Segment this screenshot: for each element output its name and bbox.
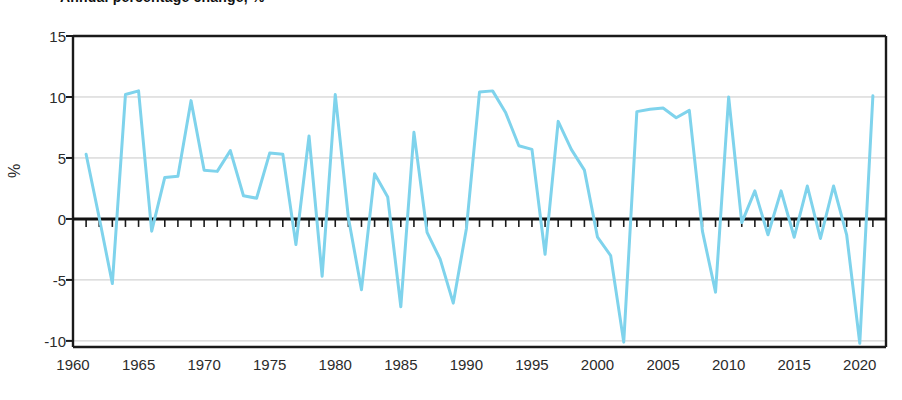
x-tick-label: 1985	[371, 356, 431, 373]
x-tick-label: 1975	[240, 356, 300, 373]
chart-figure: Annual percentage change, % 151050-5-10 …	[0, 0, 902, 400]
x-tick-label: 1960	[43, 356, 103, 373]
x-tick-label: 1965	[109, 356, 169, 373]
x-tick-label: 2000	[568, 356, 628, 373]
x-tick-label: 2005	[633, 356, 693, 373]
x-tick-label: 2015	[764, 356, 824, 373]
x-axis-tick-labels: 1960196519701975198019851990199520002005…	[0, 356, 902, 386]
data-series	[86, 91, 873, 343]
x-tick-label: 1980	[305, 356, 365, 373]
x-tick-label: 1995	[502, 356, 562, 373]
x-tick-label: 1970	[174, 356, 234, 373]
x-tick-label: 2010	[699, 356, 759, 373]
plot-frame	[73, 36, 886, 347]
x-tick-label: 2020	[830, 356, 890, 373]
x-tick-label: 1990	[436, 356, 496, 373]
plot-area	[0, 0, 902, 400]
